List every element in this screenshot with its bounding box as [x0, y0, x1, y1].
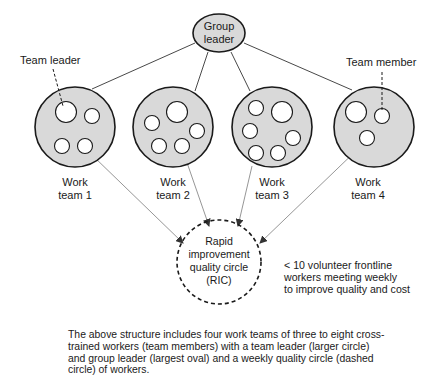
work-team-2-circle [133, 87, 213, 167]
ric-line2: improvement [174, 248, 264, 261]
ric-label: Rapid improvement quality circle (RIC) [174, 235, 264, 287]
team-leader-circle [346, 102, 367, 123]
team-member-callout: Team member [346, 56, 416, 69]
team-member-circle [375, 109, 390, 124]
work-team-1-label: Work team 1 [45, 176, 105, 202]
team-leader-circle [272, 102, 293, 123]
work-team-3-circle [232, 87, 312, 167]
team-leader-circle [167, 102, 188, 123]
team-leader-circle [56, 102, 77, 123]
ric-line3: quality circle [174, 261, 264, 274]
ric-arrows [92, 145, 362, 243]
team-leader-callout: Team leader [20, 54, 81, 67]
team-label-line1: Work [338, 176, 398, 189]
work-team-2-label: Work team 2 [143, 176, 203, 202]
work-team-4-circle [334, 87, 414, 167]
ric-note-line1: < 10 volunteer frontline [284, 259, 410, 271]
ric-note-line2: workers meeting weekly [284, 271, 410, 283]
diagram-caption: The above structure includes four work t… [68, 329, 388, 376]
group-leader-line2: leader [194, 33, 244, 46]
team-label-line1: Work [242, 176, 302, 189]
team-label-line1: Work [45, 176, 105, 189]
team-label-line2: team 2 [143, 189, 203, 202]
group-leader-line1: Group [194, 20, 244, 33]
team-label-line2: team 3 [242, 189, 302, 202]
team-label-line2: team 1 [45, 189, 105, 202]
ric-note: < 10 volunteer frontline workers meeting… [284, 259, 410, 295]
group-leader-label: Group leader [194, 20, 244, 46]
ric-note-line3: to improve quality and cost [284, 283, 410, 295]
work-team-4-label: Work team 4 [338, 176, 398, 202]
ric-line4: (RIC) [174, 274, 264, 287]
ric-line1: Rapid [174, 235, 264, 248]
work-team-1-circle [35, 87, 115, 167]
work-team-3-label: Work team 3 [242, 176, 302, 202]
team-label-line2: team 4 [338, 189, 398, 202]
team-label-line1: Work [143, 176, 203, 189]
